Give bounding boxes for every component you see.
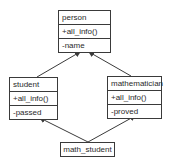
class-name: person	[59, 11, 110, 24]
class-name: math_student	[61, 143, 114, 156]
arrow-mathstudent-to-student	[40, 118, 88, 142]
class-student: student +all_info() -passed	[9, 77, 58, 120]
class-attribute: -proved	[108, 104, 161, 118]
arrow-mathematician-to-person	[89, 52, 131, 76]
class-name: mathematician	[108, 77, 161, 90]
class-method: +all_info()	[10, 91, 57, 105]
class-math-student: math_student	[60, 142, 115, 157]
class-mathematician: mathematician +all_info() -proved	[107, 76, 162, 119]
class-method: +all_info()	[59, 24, 110, 38]
class-name: student	[10, 78, 57, 91]
arrow-student-to-person	[37, 52, 80, 77]
class-method: +all_info()	[108, 90, 161, 104]
arrow-mathstudent-to-mathematician	[88, 116, 135, 142]
class-person: person +all_info() -name	[58, 10, 111, 53]
class-attribute: -name	[59, 38, 110, 52]
class-attribute: -passed	[10, 105, 57, 119]
